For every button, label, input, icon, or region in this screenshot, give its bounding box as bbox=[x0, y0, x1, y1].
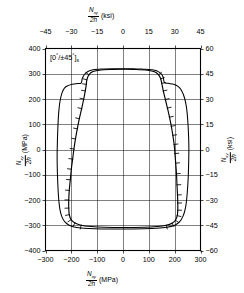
left-axis-caption: Nxy 2h (MPa) bbox=[16, 119, 32, 181]
plot-frame bbox=[46, 49, 201, 251]
ticklabel-top-0: −45 bbox=[39, 28, 51, 35]
ticklabel-right-4: 0 bbox=[206, 146, 210, 153]
right-axis-unit: (ksi) bbox=[225, 137, 232, 150]
right-axis-caption: Nxy 2h (ksi) bbox=[221, 121, 237, 179]
ticklabel-bottom-6: 300 bbox=[195, 256, 207, 263]
bottom-axis-caption: Nxy 2h (MPa) bbox=[86, 271, 118, 287]
ticklabel-bottom-5: 200 bbox=[169, 256, 181, 263]
failure-envelope-curves bbox=[57, 69, 189, 230]
ticklabel-top-3: 0 bbox=[121, 28, 125, 35]
left-axis-numerator: Nxy bbox=[16, 155, 25, 166]
left-axis-unit: (MPa) bbox=[20, 134, 27, 153]
ticklabel-right-5: −15 bbox=[206, 171, 218, 178]
curve-inner-hatched-envelope bbox=[69, 69, 178, 227]
bottom-axis-unit: (MPa) bbox=[99, 276, 118, 283]
ticklabel-left-7: −300 bbox=[24, 222, 40, 229]
ticklabel-bottom-4: 100 bbox=[143, 256, 155, 263]
ticklabel-bottom-1: −200 bbox=[63, 256, 79, 263]
ticklabel-top-1: −30 bbox=[65, 28, 77, 35]
bottom-axis-fraction: Nxy 2h bbox=[86, 271, 97, 287]
ticklabel-left-4: 0 bbox=[37, 146, 41, 153]
left-axis-denominator: 2h bbox=[25, 155, 33, 166]
ticklabel-right-8: −60 bbox=[206, 247, 218, 254]
right-axis-denominator: 2h bbox=[230, 152, 238, 163]
gridlines bbox=[46, 49, 201, 251]
ticklabel-left-2: 200 bbox=[29, 96, 41, 103]
ticklabel-right-0: 60 bbox=[206, 45, 214, 52]
ticklabel-right-7: −45 bbox=[206, 222, 218, 229]
curve-outer-envelope bbox=[57, 69, 189, 229]
ticklabel-top-4: 15 bbox=[145, 28, 153, 35]
left-axis-fraction: Nxy 2h bbox=[16, 155, 32, 166]
ticklabel-right-2: 30 bbox=[206, 96, 214, 103]
ticklabel-top-5: 30 bbox=[171, 28, 179, 35]
right-axis-numerator: Nxy bbox=[221, 152, 230, 163]
ticklabel-left-8: −400 bbox=[24, 247, 40, 254]
bottom-axis-denominator: 2h bbox=[86, 280, 97, 288]
ticklabel-right-1: 45 bbox=[206, 70, 214, 77]
right-axis-fraction: Nxy 2h bbox=[221, 152, 237, 163]
ticklabel-right-3: 15 bbox=[206, 121, 214, 128]
ticklabel-bottom-2: −100 bbox=[89, 256, 105, 263]
ticklabel-left-1: 300 bbox=[29, 70, 41, 77]
ticklabel-bottom-0: −300 bbox=[37, 256, 53, 263]
laminate-annotation: [0°/±45°]s bbox=[50, 52, 79, 64]
ticklabel-top-2: −15 bbox=[91, 28, 103, 35]
ticklabel-left-0: 400 bbox=[29, 45, 41, 52]
ticklabel-right-6: −30 bbox=[206, 197, 218, 204]
laminate-annotation-text: [0°/±45°]s bbox=[50, 53, 79, 62]
ticklabel-left-6: −200 bbox=[24, 197, 40, 204]
ticklabel-bottom-3: 0 bbox=[121, 256, 125, 263]
figure-root: Nxy 2h (ksi) −45−30−150153045 −300−200−1… bbox=[0, 0, 244, 293]
bottom-axis-numerator: Nxy bbox=[86, 271, 97, 280]
ticklabel-top-6: 45 bbox=[197, 28, 205, 35]
